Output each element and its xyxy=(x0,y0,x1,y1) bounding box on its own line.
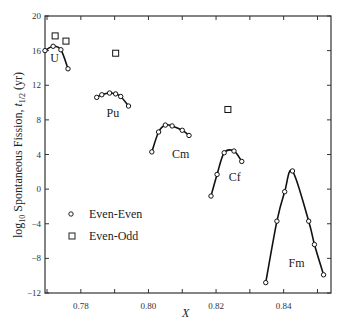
legend-even-even-label: Even-Even xyxy=(89,207,142,221)
svg-text:log10 Spontaneous Fission, t1/: log10 Spontaneous Fission, t1/2 (yr) xyxy=(11,72,27,238)
even-odd-marker xyxy=(113,50,119,56)
x-tick-label: 0.80 xyxy=(141,301,157,311)
even-even-marker xyxy=(321,273,325,277)
y-axis-title: log10 Spontaneous Fission, t1/2 (yr) xyxy=(11,72,27,238)
even-even-marker xyxy=(282,190,286,194)
even-even-marker xyxy=(312,242,316,246)
even-even-marker xyxy=(306,219,310,223)
even-even-marker xyxy=(209,194,213,198)
even-odd-marker xyxy=(63,38,69,44)
even-even-marker xyxy=(43,48,47,52)
even-even-marker xyxy=(187,133,191,137)
even-odd-marker xyxy=(225,106,231,112)
even-even-marker xyxy=(232,149,236,153)
legend-even-odd-label: Even-Odd xyxy=(89,229,138,243)
y-tick-label: 8 xyxy=(37,115,42,125)
series-label-cf: Cf xyxy=(229,170,241,184)
even-even-marker xyxy=(156,130,160,134)
y-tick-label: 12 xyxy=(32,80,41,90)
series-label-cm: Cm xyxy=(172,147,190,161)
even-even-marker xyxy=(51,44,55,48)
spontaneous-fission-chart: −12−8−40481216200.780.800.820.84 UPuCmCf… xyxy=(0,0,344,330)
even-even-marker xyxy=(215,172,219,176)
y-tick-label: 20 xyxy=(32,11,42,21)
even-even-marker xyxy=(275,219,279,223)
series-curves xyxy=(45,46,324,282)
x-tick-label: 0.78 xyxy=(73,301,89,311)
even-even-marker xyxy=(240,159,244,163)
even-even-marker xyxy=(100,93,104,97)
x-tick-label: 0.84 xyxy=(276,301,292,311)
even-even-marker xyxy=(180,128,184,132)
legend-even-odd-marker xyxy=(69,233,75,239)
even-odd-marker xyxy=(52,33,58,39)
y-tick-label: −4 xyxy=(31,219,41,229)
y-tick-label: 0 xyxy=(37,184,42,194)
even-even-marker xyxy=(264,280,268,284)
even-even-marker xyxy=(66,67,70,71)
y-tick-label: 4 xyxy=(37,150,42,160)
even-even-marker xyxy=(170,124,174,128)
even-even-marker xyxy=(150,150,154,154)
even-even-marker xyxy=(126,104,130,108)
even-even-marker xyxy=(222,151,226,155)
even-even-marker xyxy=(163,123,167,127)
series-label-pu: Pu xyxy=(107,106,120,120)
legend: Even-Even Even-Odd xyxy=(69,207,143,243)
even-even-marker xyxy=(113,92,117,96)
even-even-marker xyxy=(119,94,123,98)
y-tick-label: 16 xyxy=(32,46,42,56)
even-even-marker xyxy=(107,91,111,95)
series-label-u: U xyxy=(50,51,59,65)
x-tick-label: 0.82 xyxy=(208,301,224,311)
even-even-marker xyxy=(290,169,294,173)
y-tick-label: −8 xyxy=(31,253,41,263)
series-label-fm: Fm xyxy=(289,256,306,270)
even-even-marker xyxy=(59,48,63,52)
legend-even-even-marker xyxy=(69,212,73,216)
x-axis-title: X xyxy=(181,306,190,320)
y-tick-label: −12 xyxy=(27,288,41,298)
axis-ticks: −12−8−40481216200.780.800.820.84 xyxy=(27,11,331,311)
even-even-marker xyxy=(95,95,99,99)
